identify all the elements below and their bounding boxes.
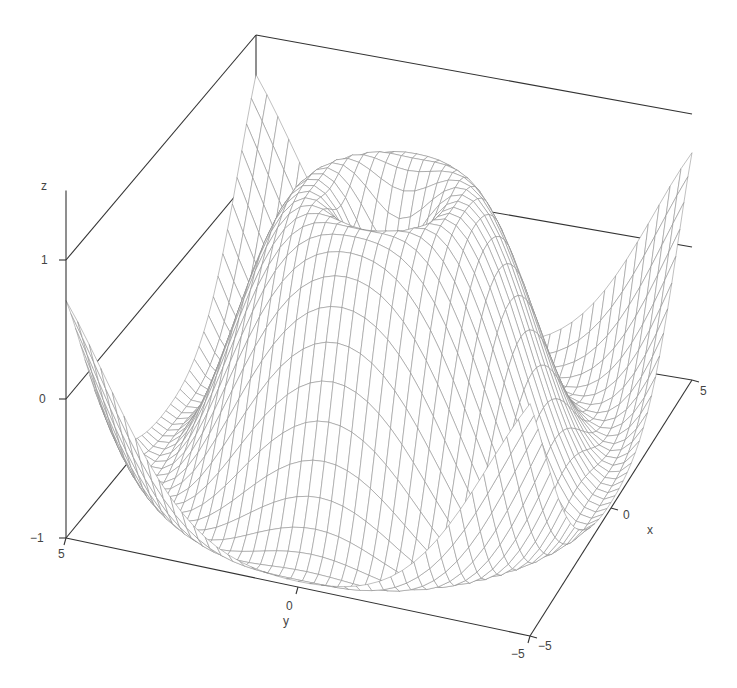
- z-axis-label: z: [41, 180, 47, 192]
- x-tick-label-0: 0: [623, 509, 630, 521]
- y-tick-label-5: 5: [58, 548, 65, 560]
- surface-plot: [0, 0, 737, 688]
- y-axis-label: y: [283, 615, 289, 627]
- z-tick-label-1: 1: [41, 254, 48, 266]
- wireframe-mesh: [66, 75, 692, 592]
- z-tick-label-0: 0: [39, 393, 46, 405]
- x-axis-label: x: [647, 524, 653, 536]
- x-tick-label-minus5: −5: [538, 640, 552, 652]
- z-tick-label-minus1: −1: [30, 532, 44, 544]
- y-tick-label-0: 0: [286, 600, 293, 612]
- y-tick-label-minus5: −5: [511, 648, 525, 660]
- x-tick-label-5: 5: [700, 385, 707, 397]
